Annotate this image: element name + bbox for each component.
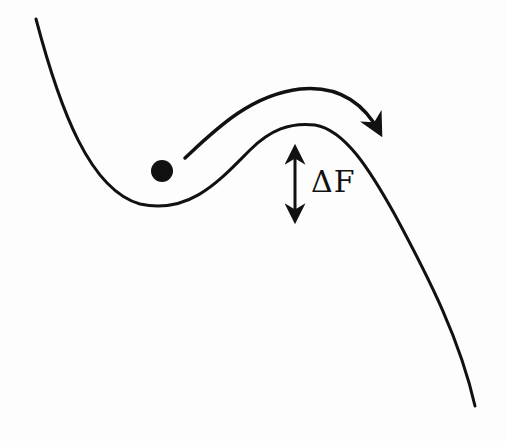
barrier-label: ΔF [311,164,355,199]
energy-landscape-diagram: ΔF [0,0,506,441]
diagram-graphics [0,0,506,441]
particle-ball [151,160,173,182]
energy-curve [36,19,475,406]
